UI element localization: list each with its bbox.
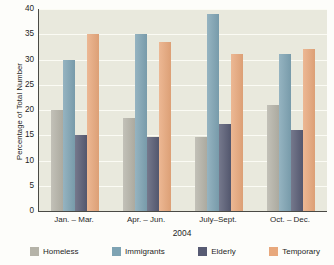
bars-layer [39,9,327,211]
y-axis-tick-label: 25 [14,81,34,89]
y-axis-tick-label: 20 [14,106,34,114]
legend-swatch-icon [198,247,207,256]
bar-immigrants[interactable] [135,34,147,211]
x-axis-title: 2004 [38,228,326,238]
bar-elderly[interactable] [291,130,303,211]
bar-temporary[interactable] [159,42,171,211]
bar-homeless[interactable] [51,110,63,211]
bar-homeless[interactable] [123,118,135,211]
y-axis-tick-labels: 4035302520151050 [14,9,34,211]
bar-temporary[interactable] [303,49,315,211]
legend-label: Elderly [211,247,235,256]
legend-swatch-icon [269,247,278,256]
chart-title [0,0,334,1]
bar-homeless[interactable] [267,105,279,211]
x-axis-tick-label: Apr. – Jun. [110,215,182,227]
legend-swatch-icon [112,247,121,256]
y-axis-tick-label: 15 [14,131,34,139]
bar-elderly[interactable] [147,137,159,211]
legend-swatch-icon [30,247,39,256]
y-axis-tick-label: 0 [14,207,34,215]
y-axis-tick-label: 5 [14,182,34,190]
legend-item-immigrants[interactable]: Immigrants [112,247,165,256]
y-axis-tick-label: 40 [14,5,34,13]
y-axis-tick-label: 35 [14,30,34,38]
bar-immigrants[interactable] [207,14,219,211]
bar-elderly[interactable] [219,124,231,211]
legend-label: Homeless [43,247,79,256]
bar-group [195,9,243,211]
bar-group [123,9,171,211]
legend-item-elderly[interactable]: Elderly [198,247,235,256]
y-axis-tick-label: 30 [14,56,34,64]
chart-legend: HomelessImmigrantsElderlyTemporary [30,247,320,256]
legend-label: Temporary [282,247,320,256]
bar-temporary[interactable] [87,34,99,211]
legend-item-homeless[interactable]: Homeless [30,247,79,256]
x-axis-tick-label: July–Sept. [182,215,254,227]
bar-immigrants[interactable] [279,54,291,211]
bar-immigrants[interactable] [63,60,75,212]
x-axis-tick-label: Oct. – Dec. [254,215,326,227]
bar-temporary[interactable] [231,54,243,211]
legend-item-temporary[interactable]: Temporary [269,247,320,256]
bar-group [267,9,315,211]
plot-area [38,9,327,212]
x-axis-tick-labels: Jan. – Mar.Apr. – Jun.July–Sept.Oct. – D… [38,215,326,227]
legend-label: Immigrants [125,247,165,256]
chart-figure: Percentage of Total Number 4035302520151… [0,0,334,265]
y-axis-tick-label: 10 [14,157,34,165]
bar-homeless[interactable] [195,137,207,211]
bar-group [51,9,99,211]
x-axis-tick-label: Jan. – Mar. [38,215,110,227]
bar-elderly[interactable] [75,135,87,211]
